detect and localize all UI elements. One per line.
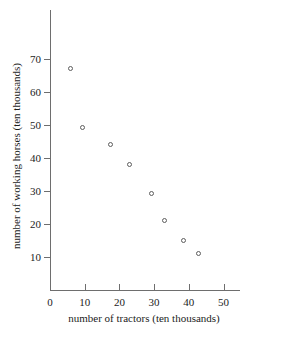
x-tick-label: 50 <box>211 297 237 308</box>
x-tick-label: 10 <box>72 297 98 308</box>
data-point <box>196 251 201 256</box>
y-axis-line <box>50 10 51 291</box>
x-tick-mark <box>224 284 225 291</box>
data-point <box>127 162 132 167</box>
x-tick-label: 20 <box>106 297 132 308</box>
data-point <box>80 125 85 130</box>
y-tick-mark <box>44 125 51 126</box>
y-tick-mark <box>44 92 51 93</box>
data-point <box>149 191 154 196</box>
x-axis-line <box>50 290 240 291</box>
plot-area: 10203040506070 01020304050 number of tra… <box>0 0 288 337</box>
x-tick-label: 30 <box>141 297 167 308</box>
x-tick-mark <box>85 284 86 291</box>
x-tick-mark <box>119 284 120 291</box>
data-point <box>181 238 186 243</box>
y-tick-mark <box>44 158 51 159</box>
x-tick-mark <box>189 284 190 291</box>
y-tick-mark <box>44 257 51 258</box>
x-tick-label: 40 <box>176 297 202 308</box>
y-tick-mark <box>44 59 51 60</box>
x-tick-mark <box>154 284 155 291</box>
y-tick-mark <box>44 224 51 225</box>
data-point <box>68 66 73 71</box>
data-point <box>162 218 167 223</box>
data-point <box>108 142 113 147</box>
y-axis-title: number of working horses (ten thousands) <box>10 36 22 276</box>
x-axis-title: number of tractors (ten thousands) <box>0 312 288 324</box>
scatter-plot-figure: 10203040506070 01020304050 number of tra… <box>0 0 288 337</box>
x-tick-label: 0 <box>37 297 63 308</box>
y-tick-mark <box>44 191 51 192</box>
